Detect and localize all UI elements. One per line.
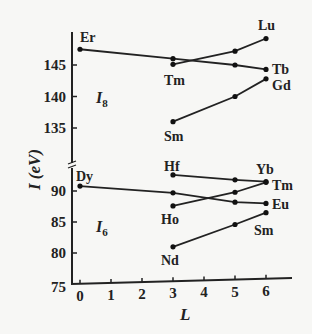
axis-break-icon [68, 161, 76, 168]
series-line-tm-lu [173, 39, 266, 65]
data-point [170, 119, 175, 124]
series-line-nd-sm [173, 213, 266, 247]
y-tick-label: 140 [44, 89, 67, 105]
element-label-yb: Yb [256, 162, 274, 177]
axes [68, 32, 292, 284]
element-label-sm: Sm [254, 223, 274, 238]
x-tick-label: 4 [200, 284, 208, 300]
data-point [232, 49, 237, 54]
x-tick-label: 2 [138, 286, 146, 302]
series-line-hf-yb [173, 175, 266, 182]
data-point [232, 94, 237, 99]
element-label-tm: Tm [272, 178, 293, 193]
x-axis [71, 278, 292, 284]
data-point [263, 201, 268, 206]
data-point [232, 222, 237, 227]
data-point [263, 180, 268, 185]
data-point [263, 210, 268, 215]
data-point [170, 190, 175, 195]
data-point [232, 200, 237, 205]
series-line-sm-gd [173, 79, 266, 122]
data-point [170, 56, 175, 61]
y-tick-label: 80 [51, 245, 66, 261]
data-point [77, 47, 82, 52]
y-axis-title: I (eV) [25, 149, 44, 191]
element-label-tb: Tb [272, 62, 289, 77]
x-tick-label: 3 [169, 285, 177, 301]
panel-label-i8: I8 [95, 89, 108, 109]
x-axis-title: L [179, 305, 190, 324]
data-point [263, 36, 268, 41]
data-point [263, 67, 268, 72]
element-label-tm: Tm [164, 73, 185, 88]
element-label-ho: Ho [161, 212, 179, 227]
data-point [232, 62, 237, 67]
data-point [232, 177, 237, 182]
element-label-dy: Dy [76, 169, 93, 184]
data-point [170, 244, 175, 249]
element-label-nd: Nd [161, 253, 179, 268]
element-label-lu: Lu [258, 18, 275, 33]
element-label-gd: Gd [272, 78, 291, 93]
panel-label-i6: I6 [95, 218, 108, 238]
y-tick-label: 135 [44, 120, 67, 136]
element-label-er: Er [80, 30, 96, 45]
element-label-eu: Eu [272, 197, 289, 212]
data-point [232, 190, 237, 195]
y-tick-label: 75 [51, 279, 66, 295]
y-tick-label: 145 [44, 57, 67, 73]
element-label-hf: Hf [164, 159, 180, 174]
y-tick-label: 85 [51, 214, 66, 230]
data-point [263, 76, 268, 81]
ionization-energy-chart: 13514014575808590 0123456 ErLuTmTbGdSmDy… [0, 0, 312, 334]
y-tick-label: 90 [51, 183, 66, 199]
data-point [170, 62, 175, 67]
x-tick-label: 5 [231, 284, 239, 300]
x-tick-label: 1 [107, 287, 115, 303]
x-tick-label: 6 [262, 283, 270, 299]
x-tick-label: 0 [76, 288, 84, 304]
element-label-sm: Sm [164, 129, 184, 144]
element-labels: ErLuTmTbGdSmDyHfYbTmEuHoSmNd [76, 18, 293, 268]
data-point [77, 183, 82, 188]
data-point [170, 203, 175, 208]
